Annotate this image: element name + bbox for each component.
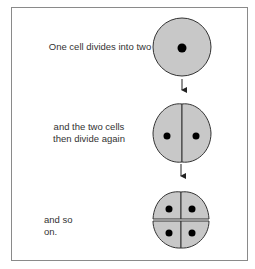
diagram-canvas	[0, 0, 255, 269]
cell-4-top-right	[181, 192, 209, 219]
cell-stage-1	[153, 18, 211, 76]
nucleus	[189, 230, 196, 237]
cell-stage-3	[153, 192, 209, 248]
nucleus	[189, 206, 196, 213]
cell-4-top-left	[153, 192, 181, 219]
nucleus	[166, 230, 173, 237]
nucleus	[178, 44, 187, 53]
nucleus	[193, 133, 200, 140]
cell-stage-2	[153, 104, 211, 162]
nucleus	[166, 206, 173, 213]
nucleus	[164, 133, 171, 140]
